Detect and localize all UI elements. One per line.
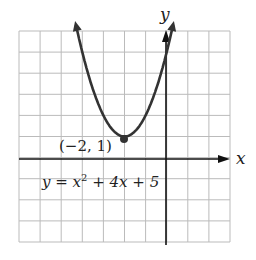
curve-left-arrow [73,21,82,32]
vertex-label: (−2, 1) [59,137,112,155]
x-axis-label: x [236,148,246,168]
parabola-graph: y x (−2, 1) y = x2 + 4x + 5 [0,0,256,260]
equation-label: y = x2 + 4x + 5 [41,172,159,191]
y-axis-label: y [159,4,170,24]
vertex-point [120,135,128,143]
x-axis-arrow [218,155,230,163]
